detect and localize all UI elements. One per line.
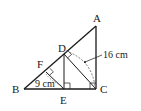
label-e: E bbox=[60, 94, 67, 106]
leader-dot bbox=[84, 61, 86, 63]
measurement-16cm: 16 cm bbox=[103, 49, 128, 60]
right-angle-d-marker bbox=[68, 51, 72, 58]
right-angle-f-marker bbox=[50, 68, 54, 75]
label-f: F bbox=[37, 58, 43, 70]
leader-line-16cm bbox=[85, 55, 102, 62]
dimension-arc-dc bbox=[66, 51, 95, 87]
label-d: D bbox=[58, 42, 66, 54]
label-b: B bbox=[12, 83, 19, 95]
measurement-9cm: 9 cm bbox=[35, 78, 55, 89]
label-a: A bbox=[93, 12, 101, 24]
label-c: C bbox=[100, 83, 107, 95]
geometry-figure: A B C D E F 16 cm 9 cm bbox=[0, 0, 141, 111]
right-angle-e-marker bbox=[64, 83, 70, 89]
